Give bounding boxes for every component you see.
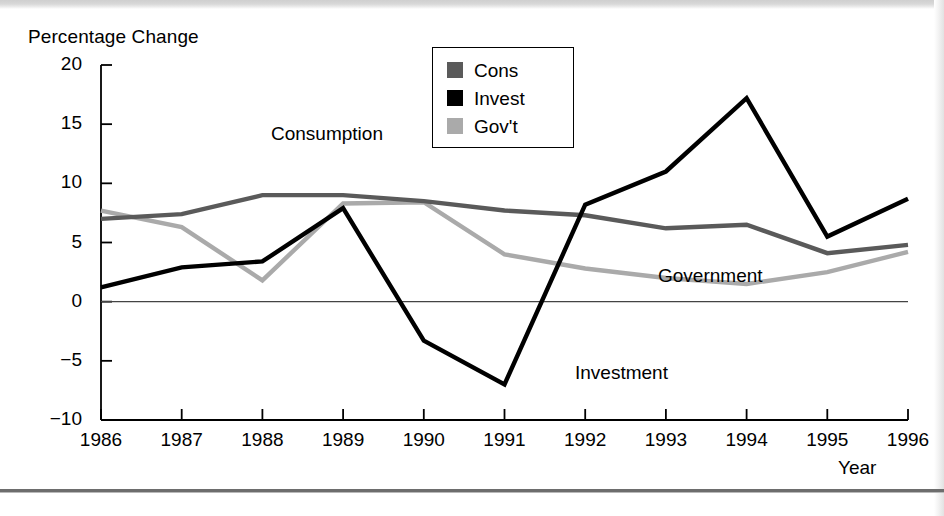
legend-label-govt: Gov't bbox=[474, 117, 518, 136]
x-tick-label: 1993 bbox=[631, 429, 701, 451]
x-tick-label: 1996 bbox=[873, 429, 943, 451]
figure-container: Percentage Change 20151050−5−10 19861987… bbox=[0, 0, 944, 516]
series-line-cons bbox=[101, 195, 908, 253]
x-tick-label: 1990 bbox=[389, 429, 459, 451]
legend-swatch-govt bbox=[447, 118, 463, 134]
page-divider-rule-shadow bbox=[0, 492, 944, 493]
y-tick-label: 0 bbox=[30, 290, 82, 312]
x-tick-label: 1995 bbox=[792, 429, 862, 451]
series-line-govt bbox=[101, 202, 908, 284]
annotation-consumption: Consumption bbox=[271, 123, 383, 145]
chart-legend: Cons Invest Gov't bbox=[432, 47, 574, 148]
y-tick-label: 15 bbox=[30, 112, 82, 134]
x-axis-title: Year bbox=[838, 457, 876, 479]
y-tick-label: −10 bbox=[30, 408, 82, 430]
x-tick-label: 1991 bbox=[470, 429, 540, 451]
annotation-investment: Investment bbox=[575, 362, 668, 384]
legend-label-invest: Invest bbox=[474, 89, 525, 108]
x-tick-label: 1989 bbox=[308, 429, 378, 451]
y-tick-label: 5 bbox=[30, 231, 82, 253]
y-tick-label: 10 bbox=[30, 171, 82, 193]
legend-item: Gov't bbox=[447, 112, 573, 140]
legend-swatch-cons bbox=[447, 62, 463, 78]
x-tick-label: 1986 bbox=[66, 429, 136, 451]
annotation-government: Government bbox=[658, 265, 763, 287]
x-tick-label: 1992 bbox=[550, 429, 620, 451]
y-tick-label: 20 bbox=[30, 53, 82, 75]
x-tick-label: 1994 bbox=[712, 429, 782, 451]
x-tick-label: 1988 bbox=[227, 429, 297, 451]
legend-label-cons: Cons bbox=[474, 61, 518, 80]
legend-item: Cons bbox=[447, 56, 573, 84]
y-tick-label: −5 bbox=[30, 349, 82, 371]
x-tick-label: 1987 bbox=[147, 429, 217, 451]
legend-item: Invest bbox=[447, 84, 573, 112]
legend-swatch-invest bbox=[447, 90, 463, 106]
